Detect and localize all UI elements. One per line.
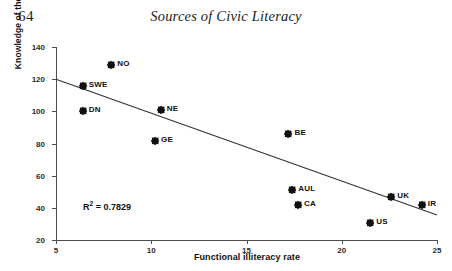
y-tick-60: 60 (52, 176, 56, 177)
x-tick-label: 20 (337, 246, 346, 255)
x-tick-5 (56, 240, 57, 244)
diamond-marker-icon (78, 106, 86, 114)
y-tick-label: 80 (36, 139, 45, 148)
x-tick-15 (247, 240, 248, 244)
data-point-label: GE (161, 135, 173, 144)
y-axis-title: Knowledge of the United Nations (13, 0, 23, 81)
y-tick-40: 40 (52, 208, 56, 209)
y-tick-140: 140 (52, 47, 56, 48)
data-point-label: BE (294, 128, 306, 137)
page-header: 64 Sources of Civic Literacy (0, 0, 452, 34)
y-tick-label: 20 (36, 236, 45, 245)
y-tick-label: 40 (36, 203, 45, 212)
diamond-marker-icon (78, 81, 86, 89)
data-point-label: NE (167, 104, 179, 113)
x-tick-label: 5 (54, 246, 58, 255)
data-point-label: UK (397, 191, 409, 200)
scatter-chart-figure: Knowledge of the United Nations Function… (0, 34, 452, 271)
y-tick-label: 120 (32, 75, 45, 84)
x-tick-label: 15 (242, 246, 251, 255)
plot-area: 20406080100120140 510152025 NOSWEDNNEGEB… (56, 47, 437, 240)
y-tick-120: 120 (52, 79, 56, 80)
diamond-marker-icon (157, 105, 165, 113)
x-tick-25 (437, 240, 438, 244)
data-point-label: SWE (89, 80, 108, 89)
diamond-marker-icon (418, 200, 426, 208)
y-tick-100: 100 (52, 111, 56, 112)
x-tick-label: 10 (147, 246, 156, 255)
x-tick-label: 25 (433, 246, 442, 255)
data-point-label: NO (117, 59, 129, 68)
r-squared-annotation: R2 = 0.7829 (83, 200, 131, 212)
x-tick-10 (151, 240, 152, 244)
data-point-label: AUL (298, 184, 315, 193)
data-point-label: US (376, 217, 388, 226)
diamond-marker-icon (294, 200, 302, 208)
y-tick-label: 140 (32, 43, 45, 52)
y-tick-label: 60 (36, 171, 45, 180)
y-tick-label: 100 (32, 107, 45, 116)
data-point-label: CA (304, 199, 316, 208)
y-tick-80: 80 (52, 144, 56, 145)
running-head-title: Sources of Civic Literacy (0, 8, 452, 25)
x-tick-20 (342, 240, 343, 244)
data-point-label: IR (428, 199, 436, 208)
data-point-label: DN (89, 105, 101, 114)
